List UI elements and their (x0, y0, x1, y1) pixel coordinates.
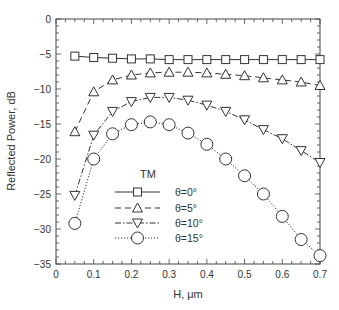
mode-annotation-tm: TM (140, 168, 156, 180)
x-tick-labels: 00.10.20.30.40.50.60.7 (53, 269, 327, 280)
triangle-down-marker (296, 147, 306, 156)
circle-marker (201, 138, 213, 150)
square-marker (241, 56, 249, 64)
series-2 (70, 93, 325, 200)
triangle-down-marker (108, 107, 118, 116)
triangle-down-marker (221, 107, 231, 116)
triangle-down-marker (258, 126, 268, 135)
y-tick-labels: 0−5−10−15−20−25−30−35 (34, 14, 51, 270)
triangle-down-marker (70, 191, 80, 200)
triangle-down-marker (277, 135, 287, 144)
square-marker (316, 56, 324, 64)
square-marker (297, 56, 305, 64)
triangle-up-marker (126, 70, 136, 79)
x-tick-label: 0.7 (313, 269, 327, 280)
circle-marker (182, 127, 194, 139)
triangle-down-marker (89, 131, 99, 140)
legend-label: θ=0° (175, 186, 197, 198)
circle-marker (132, 232, 144, 244)
y-tick-label: −20 (34, 154, 51, 165)
y-tick-label: −5 (40, 49, 52, 60)
square-marker (184, 56, 192, 64)
square-marker (134, 188, 142, 196)
circle-marker (163, 119, 175, 131)
circle-marker (88, 153, 100, 165)
circle-marker (257, 188, 269, 200)
triangle-up-marker (89, 87, 99, 96)
y-tick-label: −10 (34, 84, 51, 95)
square-marker (71, 52, 79, 60)
circle-marker (125, 119, 137, 131)
circle-marker (107, 128, 119, 140)
circle-marker (239, 170, 251, 182)
y-tick-label: −25 (34, 189, 51, 200)
x-tick-label: 0.2 (124, 269, 138, 280)
square-marker (165, 56, 173, 64)
triangle-down-marker (164, 93, 174, 102)
x-tick-label: 0.3 (162, 269, 176, 280)
y-tick-label: −30 (34, 224, 51, 235)
x-tick-label: 0.1 (87, 269, 101, 280)
circle-marker (69, 217, 81, 229)
square-marker (278, 56, 286, 64)
x-axis-label: H, μm (173, 288, 203, 300)
x-tick-label: 0.4 (200, 269, 214, 280)
series-1 (70, 67, 325, 136)
triangle-down-marker (240, 116, 250, 125)
x-tick-label: 0.6 (275, 269, 289, 280)
square-marker (203, 56, 211, 64)
square-marker (127, 55, 135, 63)
y-tick-label: 0 (45, 14, 51, 25)
triangle-down-marker (315, 159, 325, 168)
legend-label: θ=10° (175, 217, 203, 229)
triangle-down-marker (126, 98, 136, 107)
triangle-up-marker (145, 68, 155, 77)
circle-marker (295, 234, 307, 246)
triangle-up-marker (202, 68, 212, 77)
x-tick-label: 0.5 (238, 269, 252, 280)
triangle-up-marker (183, 67, 193, 76)
triangle-up-marker (108, 75, 118, 84)
reflected-power-chart: 00.10.20.30.40.50.60.7 0−5−10−15−20−25−3… (0, 0, 339, 310)
legend: θ=0°θ=5°θ=10°θ=15° (115, 186, 203, 244)
square-marker (259, 56, 267, 64)
square-marker (222, 56, 230, 64)
triangle-up-marker (70, 127, 80, 136)
triangle-down-marker (202, 101, 212, 110)
legend-label: θ=5° (175, 202, 197, 214)
triangle-up-marker (164, 67, 174, 76)
y-tick-label: −35 (34, 259, 51, 270)
data-series (69, 52, 326, 262)
circle-marker (144, 116, 156, 128)
circle-marker (220, 153, 232, 165)
triangle-up-marker (221, 69, 231, 78)
square-marker (109, 54, 117, 62)
square-marker (146, 55, 154, 63)
y-axis-label: Reflected Power, dB (5, 91, 17, 191)
y-tick-label: −15 (34, 119, 51, 130)
circle-marker (314, 250, 326, 262)
legend-label: θ=15° (175, 232, 203, 244)
square-marker (90, 54, 98, 62)
x-tick-label: 0 (53, 269, 59, 280)
circle-marker (276, 210, 288, 222)
series-0 (71, 52, 324, 64)
